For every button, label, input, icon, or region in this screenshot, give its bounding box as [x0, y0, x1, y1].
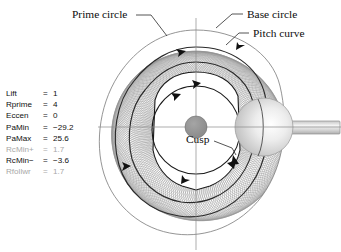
leader-base-circle [216, 14, 243, 28]
label-prime-circle: Prime circle [72, 8, 127, 20]
parameter-equals: = [43, 110, 53, 121]
parameter-equals: = [43, 88, 53, 99]
parameter-equals: = [43, 133, 53, 144]
parameter-name: Rprime [6, 99, 43, 110]
parameter-name: RcMin− [6, 155, 43, 166]
parameter-value: 25.6 [53, 133, 69, 144]
label-cusp: Cusp [186, 133, 209, 145]
parameter-row: RcMin+=1.7 [6, 144, 92, 155]
label-base-circle: Base circle [247, 8, 297, 20]
parameter-row: RcMin−=−3.6 [6, 155, 92, 166]
parameter-value: 1.7 [53, 144, 64, 155]
cam-profile-figure: Prime circle Base circle Pitch curve Cus… [0, 0, 341, 252]
parameter-equals: = [43, 122, 53, 133]
parameter-name: PaMin [6, 122, 43, 133]
parameter-name: PaMax [6, 133, 43, 144]
parameter-value: 0 [53, 110, 58, 121]
parameter-name: RcMin+ [6, 144, 43, 155]
parameter-name: Eccen [6, 110, 43, 121]
parameter-name: Rfollwr [6, 166, 43, 177]
parameter-row: Rprime=4 [6, 99, 92, 110]
parameter-value: −3.6 [53, 155, 69, 166]
parameter-equals: = [43, 144, 53, 155]
leader-prime-circle [136, 15, 167, 36]
arrow-upper-right [236, 42, 245, 50]
parameter-list: Lift=1Rprime=4Eccen=0PaMin=−29.2PaMax=25… [6, 88, 92, 178]
parameter-row: Eccen=0 [6, 110, 92, 121]
parameter-value: 4 [53, 99, 58, 110]
parameter-equals: = [43, 99, 53, 110]
parameter-value: 1 [53, 88, 58, 99]
parameter-value: 1.7 [53, 166, 64, 177]
label-pitch-curve: Pitch curve [253, 27, 305, 39]
parameter-value: −29.2 [53, 122, 73, 133]
parameter-row: Rfollwr=1.7 [6, 166, 92, 177]
parameter-equals: = [43, 155, 53, 166]
parameter-name: Lift [6, 88, 43, 99]
parameter-row: PaMin=−29.2 [6, 122, 92, 133]
parameter-row: PaMax=25.6 [6, 133, 92, 144]
parameter-equals: = [43, 166, 53, 177]
parameter-row: Lift=1 [6, 88, 92, 99]
